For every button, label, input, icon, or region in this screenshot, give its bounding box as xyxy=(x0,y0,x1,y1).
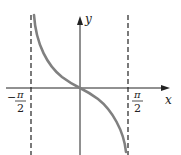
left-tick-denominator: 2 xyxy=(17,102,24,115)
right-tick-denominator: 2 xyxy=(134,102,141,115)
x-axis-label: x xyxy=(165,93,172,107)
y-axis-arrow-icon xyxy=(77,16,83,25)
left-tick-sign: − xyxy=(7,91,16,104)
x-axis-arrow-icon xyxy=(161,85,170,91)
right-tick-numerator: π xyxy=(133,89,141,100)
left-tick-numerator: π xyxy=(16,89,24,100)
y-axis-label: y xyxy=(84,12,92,26)
graph: y x − π 2 π 2 xyxy=(0,0,181,155)
